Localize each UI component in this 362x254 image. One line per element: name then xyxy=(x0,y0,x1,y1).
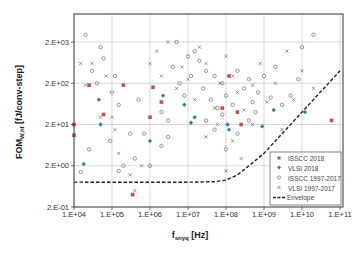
svg-text:Envelope: Envelope xyxy=(287,194,314,202)
y-tick-label: 2.E+02 xyxy=(45,79,69,88)
x-axis-label: fsnyq [Hz] xyxy=(172,230,209,241)
scatter-chart: 1.E+041.E+051.E+061.E+071.E+081.E+091.E+… xyxy=(0,0,362,254)
svg-text:VLSI 2018: VLSI 2018 xyxy=(288,165,319,172)
legend: ISSCC 2018 VLSI 2018 ISSCC 1997-2017 VLS… xyxy=(270,152,341,205)
x-axis-ticks: 1.E+041.E+051.E+061.E+071.E+081.E+091.E+… xyxy=(62,207,352,219)
y-axis-ticks: 2.E-012.E+002.E+012.E+022.E+03 xyxy=(45,38,74,212)
y-axis-label: FOMW,hf [fJ/conv-step] xyxy=(14,65,25,159)
x-tick-label: 1.E+06 xyxy=(138,210,162,219)
svg-text:VLSI 1997-2017: VLSI 1997-2017 xyxy=(288,185,335,192)
x-tick-label: 1.E+07 xyxy=(176,210,200,219)
y-tick-label: 2.E-01 xyxy=(47,203,69,212)
x-tick-label: 1.E+10 xyxy=(290,210,314,219)
y-tick-label: 2.E+03 xyxy=(45,38,69,47)
x-tick-label: 1.E+09 xyxy=(252,210,276,219)
x-tick-label: 1.E+11 xyxy=(328,210,351,219)
x-tick-label: 1.E+05 xyxy=(100,210,124,219)
y-tick-label: 2.E+01 xyxy=(45,120,69,129)
x-tick-label: 1.E+08 xyxy=(214,210,238,219)
svg-text:ISSCC 2018: ISSCC 2018 xyxy=(288,155,325,162)
square-marker-icon xyxy=(278,157,281,160)
y-tick-label: 2.E+00 xyxy=(45,161,69,170)
svg-text:ISSCC 1997-2017: ISSCC 1997-2017 xyxy=(288,175,341,182)
